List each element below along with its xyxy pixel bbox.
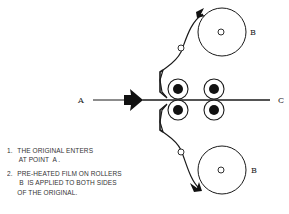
- nip-roller-bottom-left-core: [173, 105, 183, 115]
- label-b-top: B: [250, 28, 256, 37]
- nip-roller-top-left-core: [173, 84, 183, 94]
- bottom-film-roller: [198, 146, 246, 194]
- bottom-roller-axle-icon: [218, 167, 224, 173]
- label-a: A: [77, 96, 84, 105]
- nip-roller-bottom-right-core: [209, 105, 219, 115]
- note-item: 2. PRE-HEATED FILM ON ROLLERS B IS APPLI…: [7, 169, 122, 197]
- note-number: 1.: [7, 146, 17, 165]
- label-c: C: [278, 96, 284, 105]
- process-notes: 1. THE ORIGINAL ENTERS AT POINT A . 2. P…: [7, 146, 122, 201]
- note-item: 1. THE ORIGINAL ENTERS AT POINT A .: [7, 146, 122, 165]
- top-film-roller: [198, 8, 246, 56]
- note-text: PRE-HEATED FILM ON ROLLERS B IS APPLIED …: [17, 169, 121, 197]
- bottom-idler-roller: [178, 149, 184, 155]
- note-number: 2.: [7, 169, 17, 197]
- label-b-bottom: B: [251, 166, 257, 175]
- nip-roller-top-right-core: [209, 84, 219, 94]
- note-text: THE ORIGINAL ENTERS AT POINT A .: [17, 146, 93, 165]
- bottom-film-direction-arrow-icon: [190, 182, 202, 192]
- input-arrow-icon: [124, 89, 143, 111]
- top-roller-axle-icon: [218, 29, 224, 35]
- top-idler-roller: [178, 45, 184, 51]
